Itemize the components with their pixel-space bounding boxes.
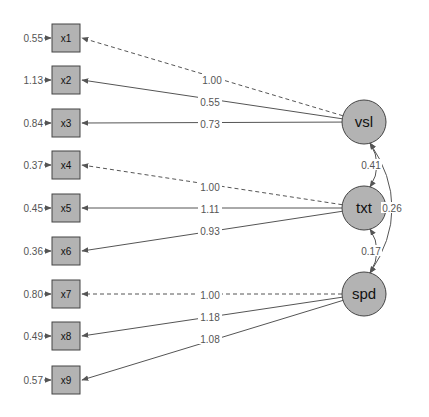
observed-label: x1 <box>61 33 72 44</box>
loading-label: 1.00 <box>202 75 222 86</box>
observed-label: x5 <box>61 203 72 214</box>
residual-label: 1.13 <box>24 75 44 86</box>
loading-label: 1.18 <box>200 312 220 323</box>
residual-label: 0.57 <box>24 375 44 386</box>
residual-label: 0.37 <box>24 160 44 171</box>
covariance-label: 0.17 <box>361 246 381 257</box>
residual-label: 0.49 <box>24 331 44 342</box>
observed-label: x6 <box>61 246 72 257</box>
observed-label: x4 <box>61 160 72 171</box>
observed-label: x7 <box>61 289 72 300</box>
residual-label: 0.80 <box>24 289 44 300</box>
observed-label: x9 <box>61 375 72 386</box>
covariance-label: 0.26 <box>382 203 402 214</box>
loading-label: 0.93 <box>200 226 220 237</box>
loading-label: 1.00 <box>200 182 220 193</box>
latent-label: txt <box>356 199 373 216</box>
loading-label: 1.08 <box>200 334 220 345</box>
sem-path-diagram: x1x2x3x4x5x6x7x8x9vsltxtspd 1.000.550.73… <box>0 0 429 417</box>
loading-label: 1.00 <box>200 290 220 301</box>
residual-label: 0.45 <box>24 203 44 214</box>
residual-label: 0.84 <box>24 118 44 129</box>
latent-label: vsl <box>355 113 373 130</box>
covariance-label: 0.41 <box>361 160 381 171</box>
loading-label: 0.73 <box>200 119 220 130</box>
observed-label: x3 <box>61 118 72 129</box>
residual-label: 0.55 <box>24 33 44 44</box>
latent-label: spd <box>352 285 376 302</box>
loading-label: 1.11 <box>201 204 220 215</box>
loading-label: 0.55 <box>200 97 220 108</box>
residual-label: 0.36 <box>24 246 44 257</box>
observed-label: x2 <box>61 75 72 86</box>
observed-label: x8 <box>61 331 72 342</box>
